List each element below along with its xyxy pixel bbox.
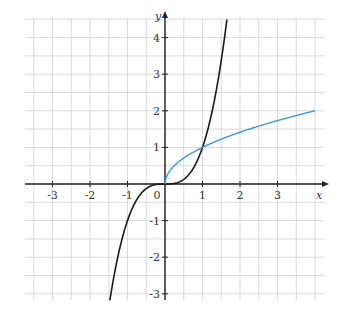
y-tick-label: 2 bbox=[153, 105, 160, 118]
curves bbox=[110, 20, 315, 301]
x-tick-label: 2 bbox=[237, 189, 244, 202]
y-axis-label: y bbox=[154, 10, 162, 23]
x-tick-label: -3 bbox=[47, 189, 58, 202]
x-tick-label: -2 bbox=[85, 189, 96, 202]
y-tick-label: 3 bbox=[153, 68, 160, 81]
y-tick-label: 1 bbox=[153, 141, 160, 154]
y-tick-label: -1 bbox=[149, 215, 160, 228]
axes bbox=[25, 11, 329, 300]
x-axis-label: x bbox=[316, 189, 323, 202]
function-graph: -3-2-10123-3-2-11234xy bbox=[0, 0, 339, 327]
x-tick-label: 1 bbox=[199, 189, 206, 202]
grid-lines bbox=[25, 18, 325, 300]
y-tick-label: -3 bbox=[149, 288, 160, 301]
y-tick-label: 4 bbox=[153, 32, 160, 45]
y-tick-label: -2 bbox=[149, 251, 160, 264]
y-axis-arrow-icon bbox=[162, 11, 168, 18]
x-tick-label: 0 bbox=[154, 189, 161, 202]
x-tick-label: 3 bbox=[274, 189, 281, 202]
x-axis-arrow-icon bbox=[322, 181, 329, 187]
x-tick-label: -1 bbox=[122, 189, 133, 202]
